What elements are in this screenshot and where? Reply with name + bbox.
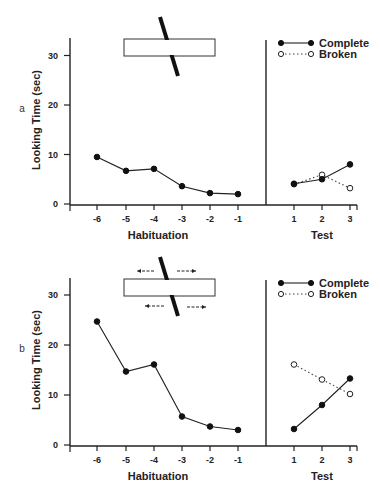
data-point-complete xyxy=(347,376,353,382)
x-tick-label: -1 xyxy=(234,455,242,465)
y-tick-label: 0 xyxy=(53,440,58,450)
arrow-left-icon xyxy=(145,304,149,308)
y-axis-title: Looking Time (sec) xyxy=(30,310,42,410)
data-point-habituation xyxy=(123,168,129,174)
x-tick-label: -5 xyxy=(122,214,130,224)
legend-marker-filled-icon xyxy=(308,280,313,285)
legend-marker-open-icon xyxy=(278,51,283,56)
y-axis-title: Looking Time (sec) xyxy=(30,70,42,170)
x-tick-label: -2 xyxy=(206,455,214,465)
series-line-habituation xyxy=(97,157,238,194)
data-point-habituation xyxy=(235,427,241,433)
x-tick-label: -3 xyxy=(178,214,186,224)
data-point-habituation xyxy=(207,190,213,196)
data-point-broken xyxy=(291,362,297,368)
data-point-complete xyxy=(347,162,353,168)
panel-label: a xyxy=(19,103,25,114)
legend-label-broken: Broken xyxy=(319,288,357,300)
y-tick-label: 20 xyxy=(48,100,58,110)
legend-marker-filled-icon xyxy=(278,40,283,45)
arrow-right-icon xyxy=(192,269,196,273)
legend-marker-open-icon xyxy=(308,291,313,296)
data-point-habituation xyxy=(151,362,157,368)
panel-label: b xyxy=(19,343,25,354)
occluder-fill xyxy=(125,40,214,55)
data-point-complete xyxy=(319,402,325,408)
chart-panel-a: 0102030-6-5-4-3-2-1123HabituationTestLoo… xyxy=(19,17,369,241)
occluder-fill xyxy=(125,280,214,295)
data-point-habituation xyxy=(207,424,213,430)
figure: 0102030-6-5-4-3-2-1123HabituationTestLoo… xyxy=(0,0,380,497)
x-tick-label: 2 xyxy=(319,214,324,224)
data-point-habituation xyxy=(123,369,129,375)
data-point-habituation xyxy=(94,319,100,325)
y-tick-label: 10 xyxy=(48,390,58,400)
y-tick-label: 0 xyxy=(53,199,58,209)
x-axis-title-habituation: Habituation xyxy=(128,470,189,482)
x-tick-label: -6 xyxy=(93,214,101,224)
x-tick-label: 3 xyxy=(347,214,352,224)
y-tick-label: 30 xyxy=(48,290,58,300)
data-point-broken xyxy=(319,377,325,383)
x-tick-label: -1 xyxy=(234,214,242,224)
x-tick-label: 1 xyxy=(291,214,296,224)
legend-label-broken: Broken xyxy=(319,48,357,60)
x-tick-label: -3 xyxy=(178,455,186,465)
x-axis-title-habituation: Habituation xyxy=(128,229,189,241)
data-point-habituation xyxy=(151,166,157,172)
x-tick-label: 3 xyxy=(347,455,352,465)
y-tick-label: 10 xyxy=(48,150,58,160)
y-tick-label: 30 xyxy=(48,51,58,61)
data-point-broken xyxy=(347,185,353,191)
x-axis-title-test: Test xyxy=(311,470,333,482)
legend-marker-open-icon xyxy=(278,291,283,296)
arrow-right-icon xyxy=(202,305,206,309)
data-point-broken xyxy=(347,391,353,397)
data-point-habituation xyxy=(235,191,241,197)
x-tick-label: 2 xyxy=(319,455,324,465)
data-point-complete xyxy=(319,176,325,182)
x-tick-label: -4 xyxy=(150,455,158,465)
legend-marker-filled-icon xyxy=(278,280,283,285)
chart-panel-b: 0102030-6-5-4-3-2-1123HabituationTestLoo… xyxy=(19,257,369,482)
x-tick-label: -4 xyxy=(150,214,158,224)
x-axis-title-test: Test xyxy=(311,229,333,241)
data-point-complete xyxy=(291,181,297,187)
x-tick-label: -6 xyxy=(93,455,101,465)
data-point-habituation xyxy=(179,414,185,420)
x-tick-label: 1 xyxy=(291,455,296,465)
x-tick-label: -2 xyxy=(206,214,214,224)
data-point-habituation xyxy=(94,154,100,160)
x-tick-label: -5 xyxy=(122,455,130,465)
arrow-left-icon xyxy=(137,269,141,273)
data-point-complete xyxy=(291,426,297,432)
legend-marker-open-icon xyxy=(308,51,313,56)
data-point-habituation xyxy=(179,183,185,189)
y-tick-label: 20 xyxy=(48,340,58,350)
series-line-habituation xyxy=(97,322,238,431)
legend-marker-filled-icon xyxy=(308,40,313,45)
